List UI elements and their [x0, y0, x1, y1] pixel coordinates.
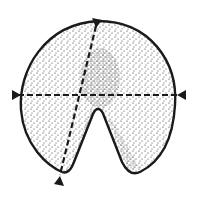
left-arrowhead-icon: [12, 90, 21, 100]
right-arrowhead-icon: [177, 90, 186, 100]
bottom-arrowhead-icon: [54, 176, 64, 186]
notched-disc-diagram: [0, 0, 199, 197]
stipple-fill: [0, 0, 199, 197]
